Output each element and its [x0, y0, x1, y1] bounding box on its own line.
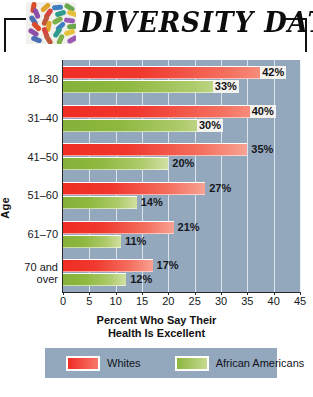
x-axis-tick-label: 30: [215, 295, 227, 307]
x-axis-tick-label: 10: [110, 295, 122, 307]
y-axis-tick-label: 70 andover: [6, 261, 58, 285]
gridline: [116, 60, 117, 292]
plot-area: 42%33%40%30%35%20%27%14%21%11%17%12%: [63, 60, 300, 292]
bar-african-americans: [63, 196, 137, 209]
x-axis-tick-label: 0: [60, 295, 66, 307]
x-axis-title-line-1: Percent Who Say Their: [8, 314, 305, 327]
legend-swatch: [175, 356, 209, 371]
mosaic-tile: [66, 10, 76, 18]
y-axis-tick-label: 51–60: [6, 189, 58, 201]
y-axis-title: Age: [0, 197, 11, 219]
bar-whites: [63, 182, 205, 195]
gridline: [274, 60, 275, 292]
x-axis-tick-label: 5: [86, 295, 92, 307]
y-axis-tick-label: 41–50: [6, 151, 58, 163]
chart-legend: WhitesAfrican Americans: [45, 348, 277, 378]
y-axis-tick-labels: 18–3031–4041–5051–6061–7070 andover: [8, 60, 58, 292]
frame-bracket-left: [4, 18, 6, 52]
bar-african-americans: [63, 157, 168, 170]
bar-value-label: 30%: [197, 119, 223, 132]
bar-whites: [63, 105, 274, 118]
bar-value-label: 14%: [141, 196, 163, 209]
gridline: [300, 60, 301, 292]
x-axis-tick-labels: 051015202530354045: [63, 295, 300, 311]
y-axis-line: [62, 60, 63, 292]
bar-value-label: 27%: [209, 182, 231, 195]
bar-value-label: 20%: [172, 157, 194, 170]
bar-whites: [63, 66, 284, 79]
x-axis-tick-label: 40: [268, 295, 280, 307]
chart-container: 42%33%40%30%35%20%27%14%21%11%17%12% 18–…: [8, 52, 305, 392]
gridline: [168, 60, 169, 292]
bar-value-label: 35%: [251, 143, 273, 156]
x-axis-tick-label: 45: [294, 295, 306, 307]
bar-value-label: 33%: [213, 80, 239, 93]
x-axis-title-line-2: Health Is Excellent: [8, 327, 305, 340]
mosaic-tile: [30, 35, 42, 43]
x-axis-line: [62, 292, 300, 293]
bar-african-americans: [63, 273, 126, 286]
gridline: [247, 60, 248, 292]
legend-swatch: [66, 356, 100, 371]
legend-item: Whites: [66, 356, 141, 371]
bar-african-americans: [63, 235, 121, 248]
bar-african-americans: [63, 80, 237, 93]
gridline: [142, 60, 143, 292]
y-axis-tick-label: 18–30: [6, 73, 58, 85]
mosaic-tiles-icon: [26, 2, 76, 44]
legend-item: African Americans: [175, 356, 305, 371]
legend-label: African Americans: [216, 357, 305, 369]
bar-value-label: 40%: [250, 105, 276, 118]
chart-header: DIVERSITY DATA: [0, 0, 313, 52]
bar-whites: [63, 221, 174, 234]
x-axis-title: Percent Who Say Their Health Is Excellen…: [8, 314, 305, 340]
x-axis-tick-label: 15: [136, 295, 148, 307]
legend-label: Whites: [107, 357, 141, 369]
mosaic-tile: [64, 17, 76, 23]
page-title: DIVERSITY DATA: [80, 3, 280, 41]
bar-value-label: 11%: [125, 235, 146, 248]
y-axis-tick-label: 31–40: [6, 112, 58, 124]
gridline: [195, 60, 196, 292]
x-axis-tick-label: 25: [189, 295, 201, 307]
bar-whites: [63, 143, 247, 156]
x-axis-tick-label: 35: [241, 295, 253, 307]
bar-value-label: 12%: [130, 273, 152, 286]
bar-value-label: 21%: [178, 221, 200, 234]
y-axis-tick-label: 61–70: [6, 228, 58, 240]
x-axis-tick-label: 20: [162, 295, 174, 307]
bar-whites: [63, 259, 153, 272]
gridline: [221, 60, 222, 292]
bar-value-label: 42%: [260, 66, 286, 79]
bar-value-label: 17%: [157, 259, 179, 272]
gridline: [89, 60, 90, 292]
